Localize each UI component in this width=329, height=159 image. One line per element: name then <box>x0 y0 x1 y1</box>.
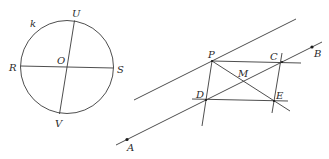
line-PE <box>212 61 290 111</box>
point-D <box>205 99 207 101</box>
circle-figure: k U V R S O <box>8 8 124 129</box>
label-D: D <box>195 89 204 100</box>
label-U: U <box>72 8 81 19</box>
label-A: A <box>126 142 134 153</box>
parallelogram-figure: A B P C D E M <box>116 19 322 153</box>
label-C: C <box>270 51 278 62</box>
label-V: V <box>55 118 64 129</box>
point-A <box>125 138 128 141</box>
point-E <box>273 100 275 102</box>
label-R: R <box>8 62 17 73</box>
label-k: k <box>30 18 36 29</box>
label-B: B <box>313 48 321 59</box>
geometry-figure: k U V R S O A B P C D E M <box>0 0 329 159</box>
label-E: E <box>275 90 284 101</box>
point-P <box>211 60 213 62</box>
point-C <box>281 61 283 63</box>
label-M: M <box>237 68 249 79</box>
label-S: S <box>117 64 124 75</box>
label-O: O <box>57 55 65 66</box>
line-PC <box>212 61 301 63</box>
label-P: P <box>207 49 215 60</box>
